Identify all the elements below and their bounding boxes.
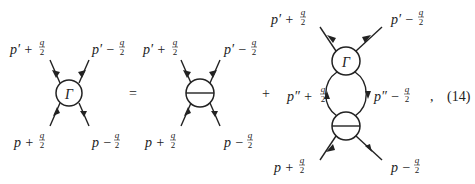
- svg-text:p +: p +: [13, 135, 34, 150]
- svg-text:p′ −: p′ −: [91, 42, 115, 57]
- arrow-icon: [80, 111, 87, 117]
- label-bottom-right: p −: [390, 155, 420, 175]
- svg-text:p″ +: p″ +: [286, 89, 313, 104]
- diagram-barred-vertex: p′ + p′ − p + p −: [142, 37, 257, 150]
- arrow-icon: [52, 70, 60, 78]
- label-bottom-right: p −: [223, 130, 253, 150]
- label-loop-left: p″ +: [286, 84, 326, 104]
- diagram-gamma-vertex: Γ p′ + p′ − p + p −: [9, 37, 125, 150]
- arrow-icon: [211, 111, 218, 117]
- gamma-symbol: Γ: [341, 55, 351, 70]
- plus-sign: +: [262, 86, 270, 101]
- label-top-right: p′ −: [390, 7, 424, 27]
- svg-text:p′ +: p′ +: [9, 42, 33, 57]
- label-bottom-left: p +: [13, 130, 45, 150]
- diagram-loop: Γ p′ + p′ − p″ + p″ − p +: [270, 7, 424, 175]
- comma: ,: [430, 89, 434, 104]
- svg-text:p −: p −: [223, 135, 244, 150]
- svg-text:p′ +: p′ +: [142, 42, 166, 57]
- arrow-icon: [53, 107, 60, 116]
- svg-text:p′ −: p′ −: [223, 42, 247, 57]
- svg-text:p +: p +: [144, 135, 165, 150]
- label-top-right: p′ −: [223, 37, 257, 57]
- label-top-left: p′ +: [270, 7, 306, 27]
- svg-text:p″ −: p″ −: [373, 89, 400, 104]
- gamma-symbol: Γ: [64, 87, 74, 102]
- arrow-icon: [78, 70, 86, 78]
- arrow-icon: [184, 107, 191, 116]
- label-loop-right: p″ −: [373, 84, 410, 104]
- label-top-left: p′ +: [9, 37, 45, 57]
- equals-sign: =: [129, 86, 137, 101]
- arrow-icon: [183, 70, 191, 78]
- svg-text:p′ −: p′ −: [390, 12, 414, 27]
- svg-text:p′ +: p′ +: [270, 12, 294, 27]
- svg-text:p −: p −: [390, 160, 411, 175]
- label-bottom-left: p +: [144, 130, 176, 150]
- svg-text:p −: p −: [91, 135, 112, 150]
- svg-text:p +: p +: [273, 160, 294, 175]
- label-bottom-right: p −: [91, 130, 120, 150]
- arrow-icon: [209, 70, 217, 78]
- label-bottom-left: p +: [273, 155, 305, 175]
- label-top-right: p′ −: [91, 37, 125, 57]
- feynman-equation: q 2 Γ p′ + p′ − p + p −: [0, 0, 475, 184]
- label-top-left: p′ +: [142, 37, 178, 57]
- equation-number: (14): [447, 89, 471, 105]
